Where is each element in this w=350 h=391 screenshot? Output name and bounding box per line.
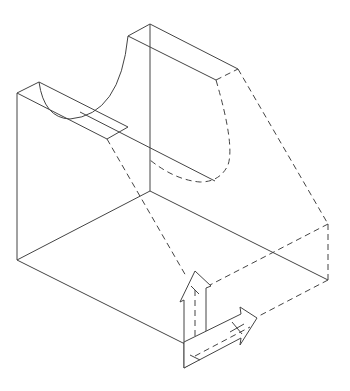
hidden-edges [107,69,328,317]
visible-edges [17,24,328,349]
isometric-drawing [0,0,350,391]
